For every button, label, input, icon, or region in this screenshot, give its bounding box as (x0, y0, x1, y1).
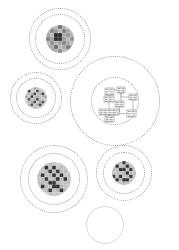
cluster-thumbnail-heatmap (46, 25, 74, 53)
cluster-thumbnail-heatmap (25, 87, 47, 109)
cluster-ring-outer (86, 206, 124, 244)
cluster-thumbnail-heatmap (112, 161, 136, 185)
cluster-bubble-diagram (0, 0, 179, 250)
cluster-thumbnail-heatmap (37, 162, 71, 196)
cluster-thumbnail-node-link (91, 77, 139, 125)
